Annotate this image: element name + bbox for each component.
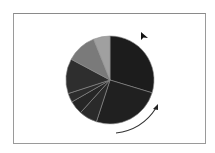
pie-chart-canvas xyxy=(0,0,215,153)
arrowhead-icon xyxy=(153,104,158,110)
pie-chart xyxy=(66,36,154,124)
pointer-cursor-icon xyxy=(141,32,148,40)
